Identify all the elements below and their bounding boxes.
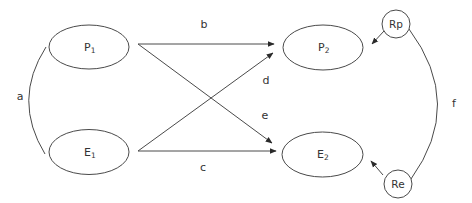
svg-text:E1: E1: [84, 146, 96, 160]
path-a-label: a: [17, 90, 24, 103]
path-f-curve: [409, 29, 438, 179]
svg-text:E2: E2: [317, 148, 329, 162]
node-p2-subscript: 2: [325, 46, 330, 55]
node-p1-subscript: 1: [91, 46, 96, 55]
node-e2-label: E: [317, 148, 324, 161]
path-f-label: f: [452, 97, 457, 110]
node-p2: P2: [283, 25, 363, 70]
node-e2: E2: [282, 132, 363, 177]
svg-text:P1: P1: [84, 41, 96, 55]
residual-rp-arrow: [372, 31, 384, 44]
node-p1: P1: [49, 25, 129, 69]
residual-re-arrow: [371, 161, 383, 175]
path-d-label: d: [263, 74, 270, 87]
node-rp: Rp: [382, 10, 410, 38]
node-e2-subscript: 2: [324, 153, 329, 162]
svg-text:P2: P2: [318, 41, 330, 55]
path-diagram: P1 E1 P2 E2 Rp Re a b c d e: [0, 0, 472, 203]
node-e1-subscript: 1: [91, 151, 96, 160]
node-re-label: Re: [391, 178, 404, 190]
path-c-label: c: [200, 161, 206, 174]
path-b-label: b: [201, 18, 208, 31]
path-e-arrow: [138, 44, 272, 143]
path-d-arrow: [138, 53, 273, 151]
node-rp-label: Rp: [389, 18, 403, 30]
node-re: Re: [384, 170, 412, 198]
path-a-curve: [29, 47, 46, 154]
node-e1: E1: [49, 130, 129, 175]
node-e1-label: E: [84, 146, 91, 159]
path-e-label: e: [262, 109, 269, 122]
